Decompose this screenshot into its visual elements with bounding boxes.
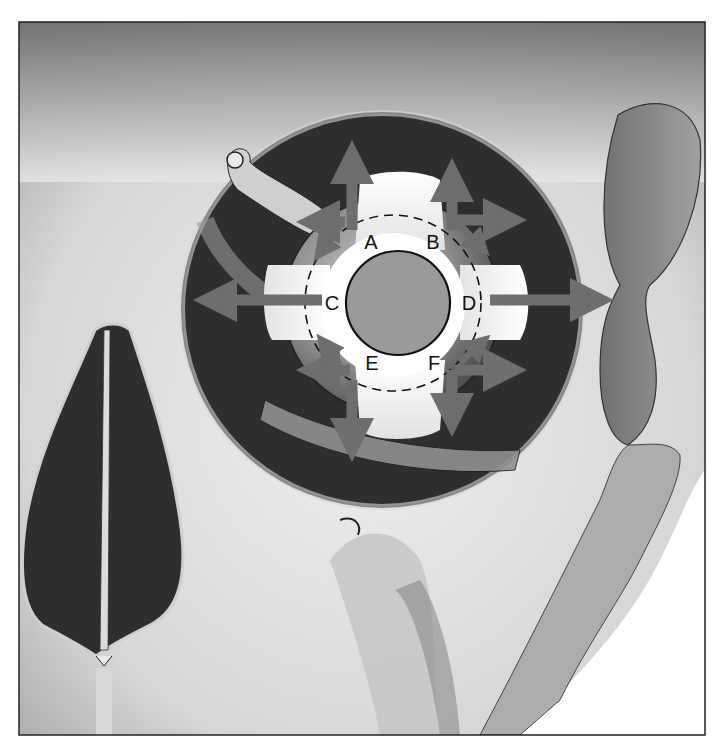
label-c: C (325, 293, 339, 313)
label-b: B (426, 232, 439, 252)
label-e: E (365, 353, 378, 373)
illustration (19, 22, 705, 735)
diagram-canvas (0, 0, 720, 752)
cornea (346, 251, 450, 355)
trochlea (227, 152, 243, 168)
anterior-nasal-spine (96, 668, 112, 735)
label-f: F (428, 353, 440, 373)
label-d: D (462, 293, 476, 313)
label-a: A (364, 232, 377, 252)
skull-eye-muscle-diagram: A B C D E F (0, 0, 720, 752)
